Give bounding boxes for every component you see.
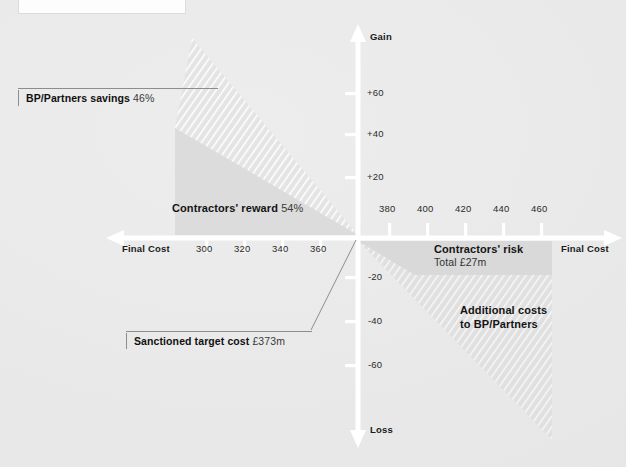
contractors-reward-label-group: Contractors' reward 54% xyxy=(172,202,303,214)
x-tick-label-340: 340 xyxy=(272,243,288,254)
target-cost-callout-rule xyxy=(126,331,312,332)
bp-savings-callout-rule xyxy=(18,88,218,89)
x-tick-440 xyxy=(502,223,505,236)
y-tick-label-minus40: -40 xyxy=(368,315,382,326)
x-axis-right-label: Final Cost xyxy=(561,243,609,254)
y-tick-label-plus40: +40 xyxy=(367,128,384,139)
y-axis-bottom-label: Loss xyxy=(370,424,393,435)
figure-canvas: Gainshare / painshare principle xyxy=(0,0,626,467)
target-cost-label: Sanctioned target cost xyxy=(134,335,249,347)
y-tick-neg40 xyxy=(345,320,358,323)
bp-savings-label: BP/Partners savings xyxy=(26,92,130,104)
y-tick-label-minus20: -20 xyxy=(368,271,382,282)
y-tick-label-plus60: +60 xyxy=(367,87,384,98)
y-tick-neg20 xyxy=(345,276,358,279)
x-tick-label-440: 440 xyxy=(493,203,509,214)
x-axis-left-label: Final Cost xyxy=(122,243,170,254)
y-tick-60 xyxy=(345,92,358,95)
contractors-risk-sub: Total £27m xyxy=(434,256,523,268)
contractors-reward-value: 54% xyxy=(281,202,303,214)
y-tick-label-minus60: -60 xyxy=(368,359,382,370)
bp-savings-value: 46% xyxy=(133,92,154,104)
x-tick-460 xyxy=(540,223,543,236)
contractors-risk-label-group: Contractors' risk Total £27m xyxy=(434,243,523,268)
x-tick-380 xyxy=(388,223,391,236)
contractors-risk-label: Contractors' risk xyxy=(434,243,523,255)
x-tick-label-400: 400 xyxy=(417,203,433,214)
target-cost-callout: Sanctioned target cost £373m xyxy=(126,333,291,349)
bp-savings-callout: BP/Partners savings 46% xyxy=(18,90,160,106)
y-axis-top-label: Gain xyxy=(370,31,392,42)
additional-costs-line2: to BP/Partners xyxy=(460,318,538,330)
x-tick-label-300: 300 xyxy=(196,243,212,254)
x-tick-label-420: 420 xyxy=(455,203,471,214)
y-tick-label-plus20: +20 xyxy=(367,171,384,182)
y-tick-neg60 xyxy=(345,364,358,367)
target-cost-value: £373m xyxy=(252,335,285,347)
x-tick-400 xyxy=(426,223,429,236)
additional-costs-label-group: Additional costs to BP/Partners xyxy=(460,304,547,331)
x-tick-label-320: 320 xyxy=(234,243,250,254)
x-tick-label-460: 460 xyxy=(531,203,547,214)
diagram-vector-layer xyxy=(0,0,626,467)
additional-costs-line1: Additional costs xyxy=(460,304,547,316)
contractors-reward-label: Contractors' reward xyxy=(172,202,278,214)
x-tick-label-380: 380 xyxy=(379,203,395,214)
x-tick-420 xyxy=(464,223,467,236)
y-tick-20 xyxy=(345,176,358,179)
x-tick-label-360: 360 xyxy=(310,243,326,254)
y-tick-40 xyxy=(345,133,358,136)
